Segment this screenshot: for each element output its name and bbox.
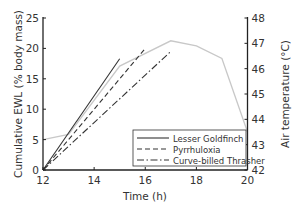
x-tick-label: 18 — [190, 174, 203, 186]
y-right-tick-label: 45 — [252, 88, 265, 100]
y-right-tick-label: 44 — [252, 113, 266, 125]
y-tick-label: 15 — [26, 73, 39, 85]
x-axis-label: Time (h) — [122, 190, 167, 202]
legend-label: Curve-billed Thrasher — [173, 156, 265, 166]
y-right-tick-label: 43 — [252, 139, 265, 151]
legend-label: Lesser Goldfinch — [173, 134, 243, 144]
x-tick-label: 14 — [87, 174, 101, 186]
y-tick-label: 25 — [26, 12, 39, 24]
x-tick-label: 16 — [139, 174, 153, 186]
x-tick-label: 20 — [241, 174, 254, 186]
y-tick-label: 10 — [26, 103, 39, 115]
y-axis-label: Cumulative EWL (% body mass) — [12, 10, 24, 178]
y-right-tick-label: 46 — [252, 63, 266, 75]
y-axis-right-label: Air temperature (°C) — [279, 40, 291, 148]
y-tick-label: 20 — [26, 42, 39, 54]
ewl-temperature-chart: 0510152025424344454647481214161820 Lesse… — [0, 0, 296, 213]
y-tick-label: 5 — [32, 134, 39, 146]
y-right-tick-label: 47 — [252, 37, 265, 49]
series-pyrrhuloxia — [43, 48, 145, 170]
legend: Lesser GoldfinchPyrrhuloxiaCurve-billed … — [133, 130, 265, 166]
x-tick-label: 12 — [36, 174, 49, 186]
series-lesser-goldfinch — [43, 59, 120, 170]
y-right-tick-label: 48 — [252, 12, 265, 24]
legend-label: Pyrrhuloxia — [173, 145, 221, 155]
